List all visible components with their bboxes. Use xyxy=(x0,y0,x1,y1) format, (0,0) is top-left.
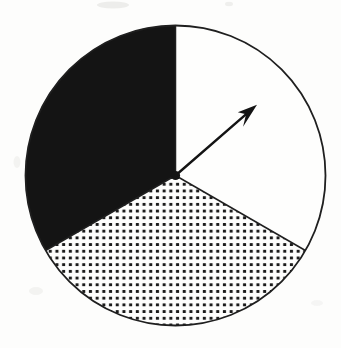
scan-smudge xyxy=(225,2,233,6)
spinner-pie-figure xyxy=(0,0,341,348)
scan-smudge xyxy=(311,300,323,306)
spinner-pivot xyxy=(171,171,180,180)
scanned-figure-page xyxy=(0,0,341,348)
scan-smudge xyxy=(14,156,21,168)
scan-smudge xyxy=(29,287,43,295)
scan-smudge xyxy=(97,2,129,9)
